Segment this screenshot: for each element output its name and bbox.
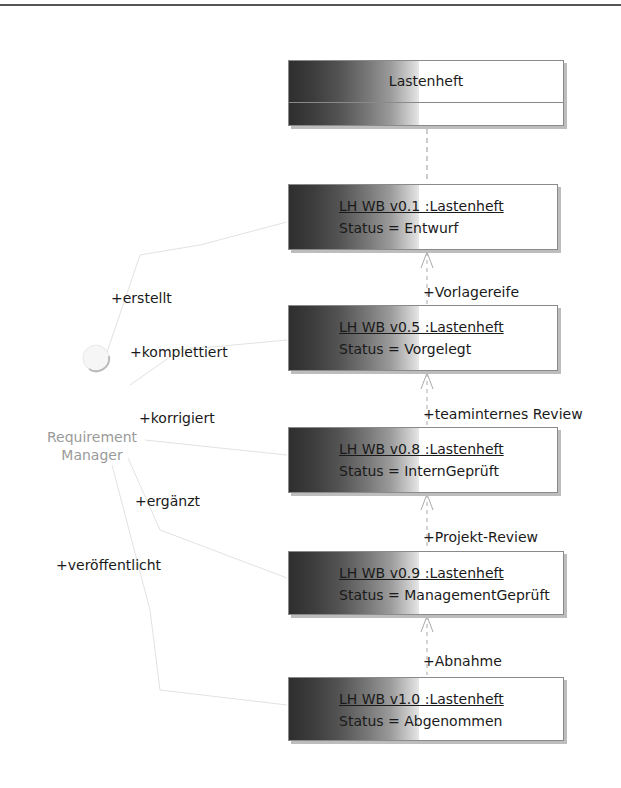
actor-name-line2: Manager	[42, 446, 142, 464]
object-name: LH WB v0.8 :Lastenheft	[339, 438, 557, 460]
actor-icon	[83, 345, 109, 371]
role-label: +erstellt	[111, 290, 172, 306]
transition-label: +Projekt-Review	[423, 529, 538, 545]
object-status: Status = ManagementGeprüft	[339, 584, 563, 606]
class-box-lastenheft[interactable]: Lastenheft	[288, 60, 564, 126]
role-label: +ergänzt	[135, 493, 200, 509]
class-divider	[289, 102, 563, 103]
object-status: Status = Entwurf	[339, 217, 557, 239]
transition-label: +teaminternes Review	[423, 406, 583, 422]
object-name: LH WB v0.5 :Lastenheft	[339, 316, 557, 338]
class-name: Lastenheft	[289, 61, 563, 102]
object-status: Status = Abgenommen	[339, 710, 563, 732]
object-status: Status = InternGeprüft	[339, 460, 557, 482]
object-box-v1-0[interactable]: LH WB v1.0 :Lastenheft Status = Abgenomm…	[288, 677, 564, 741]
role-label: +komplettiert	[130, 344, 228, 360]
transition-label: +Vorlagereife	[423, 284, 519, 300]
object-box-v0-5[interactable]: LH WB v0.5 :Lastenheft Status = Vorgeleg…	[288, 305, 558, 371]
object-status: Status = Vorgelegt	[339, 338, 557, 360]
transition-label: +Abnahme	[423, 653, 502, 669]
actor-name-line1: Requirement	[42, 428, 142, 446]
object-name: LH WB v1.0 :Lastenheft	[339, 688, 563, 710]
object-name: LH WB v0.1 :Lastenheft	[339, 195, 557, 217]
object-box-v0-1[interactable]: LH WB v0.1 :Lastenheft Status = Entwurf	[288, 184, 558, 250]
role-label: +veröffentlicht	[56, 557, 161, 573]
object-box-v0-8[interactable]: LH WB v0.8 :Lastenheft Status = InternGe…	[288, 427, 558, 493]
actor-name: Requirement Manager	[42, 428, 142, 464]
role-label: +korrigiert	[139, 410, 215, 426]
object-name: LH WB v0.9 :Lastenheft	[339, 562, 563, 584]
object-box-v0-9[interactable]: LH WB v0.9 :Lastenheft Status = Manageme…	[288, 551, 564, 615]
